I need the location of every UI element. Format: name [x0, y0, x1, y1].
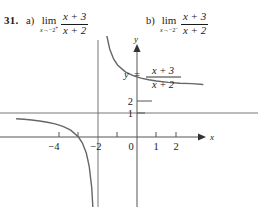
x-tick-label-2: 2 — [173, 141, 178, 152]
limit-subscript-b: x→−2− — [160, 26, 178, 33]
y-axis-label: y — [133, 36, 138, 44]
limit-sub-side-b: − — [175, 25, 178, 31]
limit-operator-b: lim x→−2− — [160, 15, 178, 34]
limit-word-b: lim — [160, 15, 178, 26]
y-axis-arrow-icon — [133, 44, 140, 52]
limit-subscript-a: x→−2+ — [40, 26, 58, 33]
curve-left-branch — [16, 119, 94, 207]
x-tick-label-minus2: −2 — [90, 141, 101, 152]
part-b-label: b) — [146, 15, 155, 26]
fraction-a: x + 3 x + 2 — [61, 11, 88, 36]
equation-lhs: y — [123, 69, 129, 80]
graph-svg: x y −4 −2 0 1 2 1 2 — [0, 36, 258, 207]
x-tick-label-1: 1 — [153, 141, 158, 152]
x-tick-label-minus4: −4 — [48, 141, 60, 152]
fraction-b: x + 3 x + 2 — [181, 11, 208, 36]
fraction-numerator-b: x + 3 — [181, 11, 208, 23]
part-a-label: a) — [26, 15, 34, 26]
limit-expression-a: lim x→−2+ x + 3 x + 2 — [40, 9, 88, 39]
y-tick-marks — [137, 101, 152, 113]
equation-equals: = — [134, 69, 140, 80]
equation-annotation: y = x + 3 x + 2 — [123, 65, 181, 90]
graph-figure: x y −4 −2 0 1 2 1 2 — [0, 36, 258, 207]
equation-numerator: x + 3 — [151, 65, 174, 76]
limit-expression-b: lim x→−2− x + 3 x + 2 — [160, 9, 208, 39]
x-axis-label: x — [209, 132, 214, 142]
y-tick-label-2: 2 — [128, 96, 133, 107]
limit-operator-a: lim x→−2+ — [40, 15, 58, 34]
problem-number: 31. — [4, 14, 18, 26]
equation-denominator: x + 2 — [151, 79, 175, 90]
fraction-denominator-a: x + 2 — [61, 24, 88, 37]
limit-word-a: lim — [40, 15, 58, 26]
problem-header: 31. a) lim x→−2+ x + 3 x + 2 b) lim x→−2… — [0, 6, 258, 38]
x-axis-arrow-icon — [198, 133, 206, 140]
fraction-denominator-b: x + 2 — [181, 24, 208, 37]
y-tick-label-1: 1 — [128, 108, 133, 119]
limit-sub-side-a: + — [55, 25, 58, 31]
fraction-numerator-a: x + 3 — [61, 11, 88, 23]
x-tick-label-0: 0 — [128, 141, 133, 152]
